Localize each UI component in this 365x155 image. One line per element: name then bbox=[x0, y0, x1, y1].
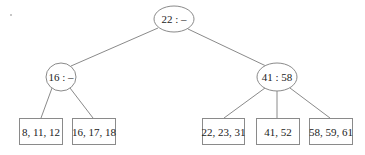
root-label: 22 : – bbox=[161, 13, 187, 25]
stray-dot bbox=[10, 14, 12, 16]
leaf-node-3: 22, 23, 31 bbox=[202, 119, 246, 145]
leaf-1-label: 8, 11, 12 bbox=[22, 126, 60, 138]
edge-left-leaf1 bbox=[41, 88, 52, 118]
leaf-4-label: 41, 52 bbox=[264, 126, 292, 138]
edge-root-right bbox=[188, 29, 266, 66]
b-tree-diagram: 22 : – 16 : – 41 : 58 8, 11, 12 16, 17, … bbox=[0, 0, 365, 155]
edge-right-leaf3 bbox=[224, 88, 265, 118]
internal-left-label: 16 : – bbox=[48, 71, 74, 83]
leaf-node-1: 8, 11, 12 bbox=[20, 119, 63, 145]
edge-right-leaf5 bbox=[290, 88, 330, 118]
leaf-node-4: 41, 52 bbox=[257, 119, 300, 145]
edge-left-leaf2 bbox=[70, 88, 93, 118]
internal-node-right: 41 : 58 bbox=[257, 63, 297, 91]
root-node: 22 : – bbox=[154, 6, 194, 32]
leaf-5-label: 58, 59, 61 bbox=[309, 126, 353, 138]
leaf-node-2: 16, 17, 18 bbox=[72, 119, 117, 145]
leaf-node-5: 58, 59, 61 bbox=[309, 119, 353, 145]
internal-right-label: 41 : 58 bbox=[262, 71, 293, 83]
leaf-2-label: 16, 17, 18 bbox=[72, 126, 117, 138]
internal-node-left: 16 : – bbox=[46, 63, 76, 91]
leaf-3-label: 22, 23, 31 bbox=[202, 126, 246, 138]
edge-root-left bbox=[71, 28, 158, 66]
